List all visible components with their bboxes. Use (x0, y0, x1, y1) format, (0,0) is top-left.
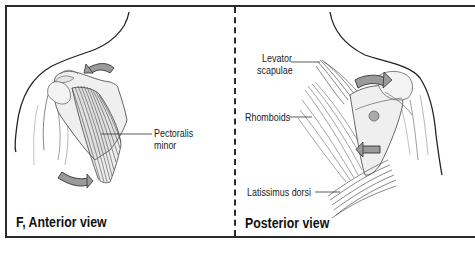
label-line: scapulae (257, 64, 289, 76)
label-latissimus-dorsi: Latissimus dorsi (247, 186, 311, 198)
label-line: minor (154, 139, 193, 151)
label-line: Pectoralis (154, 127, 193, 139)
label-pectoralis-minor: Pectoralis minor (154, 127, 193, 151)
label-rhomboids: Rhomboids (245, 111, 290, 123)
anterior-shoulder-illustration (15, 12, 152, 188)
posterior-shoulder-illustration (289, 12, 442, 218)
label-line: Levator (257, 52, 289, 64)
caption-anterior-view: F, Anterior view (16, 214, 107, 230)
caption-posterior-view: Posterior view (245, 215, 329, 231)
label-levator-scapulae: Levator scapulae (257, 52, 289, 76)
